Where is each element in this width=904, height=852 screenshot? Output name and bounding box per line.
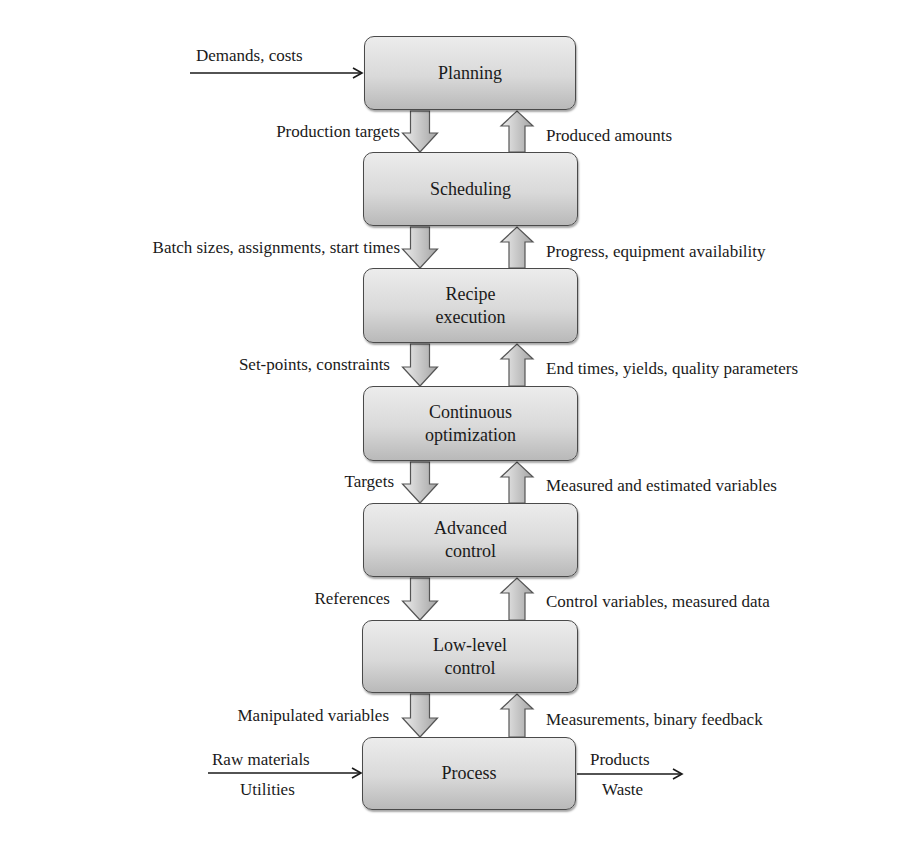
down-block-arrow: [403, 344, 438, 386]
process-box: Process: [362, 737, 576, 810]
label-raw-materials: Raw materials: [212, 750, 310, 770]
scheduling-box: Scheduling: [363, 152, 578, 226]
up-block-arrow: [501, 694, 533, 737]
up-block-arrow: [501, 462, 533, 503]
recipe-execution-label-line2: execution: [436, 306, 506, 329]
planning-label: Planning: [438, 62, 502, 85]
scheduling-label: Scheduling: [430, 178, 511, 201]
up-block-arrow: [501, 111, 533, 152]
label-progress: Progress, equipment availability: [546, 242, 766, 262]
advanced-control-box: Advanced control: [363, 503, 578, 577]
label-produced-amounts: Produced amounts: [546, 126, 672, 146]
label-waste: Waste: [602, 780, 643, 800]
low-level-control-label-line2: control: [445, 657, 496, 680]
up-block-arrow: [501, 578, 533, 620]
continuous-optimization-box: Continuous optimization: [363, 386, 578, 461]
down-block-arrow: [403, 578, 438, 620]
label-utilities: Utilities: [240, 780, 295, 800]
advanced-control-label-line1: Advanced: [434, 517, 507, 540]
low-level-control-box: Low-level control: [362, 620, 578, 693]
advanced-control-label-line2: control: [445, 540, 496, 563]
low-level-control-label-line1: Low-level: [433, 634, 507, 657]
label-control-variables: Control variables, measured data: [546, 592, 770, 612]
planning-box: Planning: [364, 36, 576, 110]
label-manipulated-variables: Manipulated variables: [237, 706, 389, 726]
label-products: Products: [590, 750, 650, 770]
down-block-arrow: [403, 227, 438, 268]
process-label: Process: [442, 762, 497, 785]
continuous-optimization-label-line1: Continuous: [429, 401, 512, 424]
recipe-execution-label-line1: Recipe: [446, 283, 496, 306]
down-block-arrow: [403, 462, 438, 503]
up-block-arrow: [501, 344, 533, 386]
up-block-arrow: [501, 227, 533, 268]
continuous-optimization-label-line2: optimization: [425, 424, 516, 447]
label-end-times: End times, yields, quality parameters: [546, 359, 798, 379]
label-batch-sizes: Batch sizes, assignments, start times: [153, 238, 400, 258]
label-measurements: Measurements, binary feedback: [546, 710, 763, 730]
recipe-execution-box: Recipe execution: [363, 268, 578, 343]
label-set-points: Set-points, constraints: [239, 355, 390, 375]
down-block-arrow: [403, 694, 438, 737]
label-demands-costs: Demands, costs: [196, 46, 303, 66]
label-targets: Targets: [345, 472, 394, 492]
down-block-arrow: [403, 111, 438, 152]
label-production-targets: Production targets: [276, 122, 400, 142]
label-measured-estimated: Measured and estimated variables: [546, 476, 777, 496]
label-references: References: [314, 589, 390, 609]
